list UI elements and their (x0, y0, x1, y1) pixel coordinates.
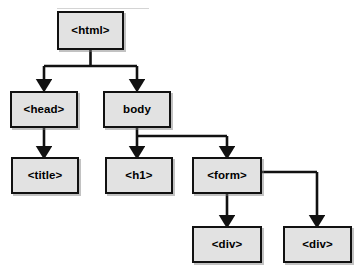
node-h1-label: <h1> (125, 169, 152, 181)
node-title[interactable]: <title> (11, 157, 79, 194)
node-html-label: <html> (71, 24, 109, 36)
node-h1[interactable]: <h1> (105, 157, 173, 194)
node-form[interactable]: <form> (192, 157, 262, 194)
node-head-label: <head> (24, 103, 65, 115)
node-title-label: <title> (28, 169, 63, 181)
node-div-first[interactable]: <div> (192, 226, 262, 263)
node-form-label: <form> (207, 169, 247, 181)
node-head[interactable]: <head> (10, 91, 78, 128)
node-div-first-label: <div> (212, 238, 243, 250)
node-html[interactable]: <html> (57, 11, 124, 50)
node-div-second[interactable]: <div> (283, 226, 352, 263)
node-body[interactable]: body (103, 91, 171, 128)
node-div-second-label: <div> (302, 238, 333, 250)
node-body-label: body (123, 103, 151, 115)
diagram-canvas: <html> <head> body <title> <h1> <form> <… (0, 0, 358, 275)
